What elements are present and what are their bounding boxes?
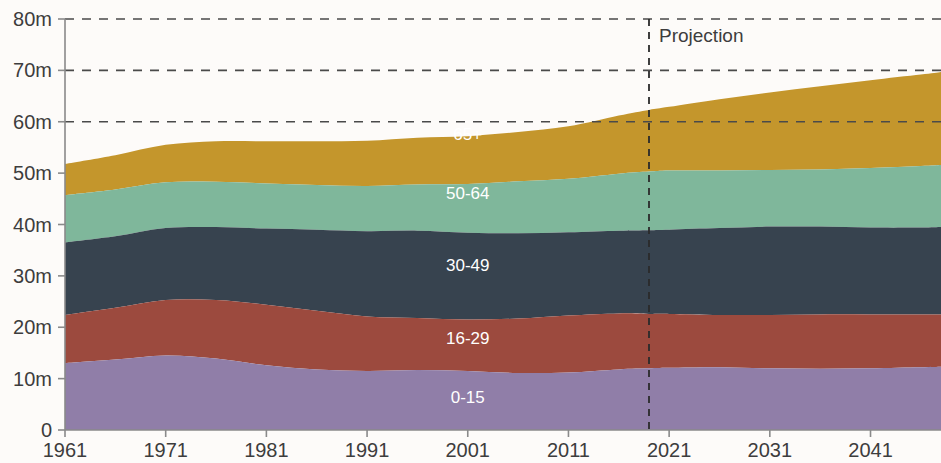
x-tick-label-2011: 2011 xyxy=(547,439,590,461)
y-tick-label-10: 10m xyxy=(13,368,52,390)
series-label-16-29: 16-29 xyxy=(446,329,489,348)
x-tick-label-1981: 1981 xyxy=(244,439,289,461)
y-tick-label-70: 70m xyxy=(13,59,52,81)
stacked-area-chart: 010m20m30m40m50m60m70m80m 19611971198119… xyxy=(0,0,941,463)
x-tick-label-2031: 2031 xyxy=(748,439,793,461)
y-tick-label-30: 30m xyxy=(13,265,52,287)
y-tick-label-40: 40m xyxy=(13,214,52,236)
series-label-50-64: 50-64 xyxy=(446,184,489,203)
x-tick-label-2041: 2041 xyxy=(848,439,893,461)
chart-canvas: 010m20m30m40m50m60m70m80m 19611971198119… xyxy=(0,0,941,463)
x-tick-label-1991: 1991 xyxy=(345,439,390,461)
y-tick-label-20: 20m xyxy=(13,316,52,338)
projection-label: Projection xyxy=(659,25,744,46)
series-label-65plus: 65+ xyxy=(453,125,482,144)
series-label-30-49: 30-49 xyxy=(446,256,489,275)
y-tick-label-0: 0 xyxy=(41,419,52,441)
y-tick-label-50: 50m xyxy=(13,162,52,184)
x-tick-label-1971: 1971 xyxy=(143,439,188,461)
y-tick-label-80: 80m xyxy=(13,8,52,30)
x-tick-label-2021: 2021 xyxy=(647,439,692,461)
y-tick-label-60: 60m xyxy=(13,111,52,133)
x-tick-label-1961: 1961 xyxy=(43,439,88,461)
series-label-0-15: 0-15 xyxy=(451,388,485,407)
x-tick-label-2001: 2001 xyxy=(446,439,491,461)
